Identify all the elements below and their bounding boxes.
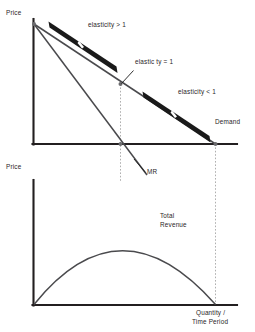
total-revenue-label-line1: Total: [160, 212, 174, 220]
elasticity-less-than-one-label: elasticity < 1: [178, 88, 216, 96]
mr-leader-line: [134, 159, 146, 173]
demand-x-intercept-point: [214, 142, 218, 146]
lower-price-axis-label: Price: [6, 163, 21, 171]
marginal-revenue-curve: [34, 24, 147, 175]
total-revenue-label-line2: Revenue: [160, 221, 187, 229]
upper-price-axis-label: Price: [6, 9, 21, 17]
marginal-revenue-label: MR: [147, 168, 157, 176]
unit-elasticity-label: elastic ty = 1: [135, 58, 173, 66]
lower-chart: [33, 180, 238, 306]
unit-elastic-leader-line: [122, 71, 134, 84]
total-revenue-curve: [34, 251, 216, 305]
elasticity-total-revenue-figure: [0, 0, 255, 332]
demand-curve-label: Demand: [215, 118, 240, 126]
elasticity-greater-than-one-label: elasticity > 1: [88, 21, 126, 29]
price-intercept-point: [32, 22, 36, 26]
quantity-axis-label-line1: Quantity /: [196, 309, 225, 317]
inelastic-region-bracket: [143, 92, 211, 143]
quantity-axis-label-line2: Time Period: [192, 318, 228, 326]
mr-x-intercept-point: [119, 142, 123, 146]
